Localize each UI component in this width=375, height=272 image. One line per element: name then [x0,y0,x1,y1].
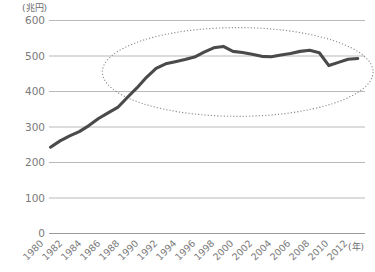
x-tick-label-1992: 1992 [135,238,160,263]
plateau-highlight-ellipse [102,28,373,117]
y-tick-label-100: 100 [25,192,45,204]
y-axis-unit-label: (兆円) [22,3,47,13]
line-chart: (兆円) 600 500 400 300 200 100 0 1980 [0,0,375,272]
x-tick-label-1980: 1980 [21,238,46,263]
x-tick-label-1998: 1998 [192,238,217,263]
x-tick-label-2008: 2008 [287,238,312,263]
x-axis-unit-label: (年) [348,241,364,252]
y-tick-label-200: 200 [25,156,45,168]
y-tick-label-600: 600 [25,14,45,26]
x-tick-label-1996: 1996 [173,238,198,263]
x-tick-label-1988: 1988 [97,238,122,263]
x-tick-label-2000: 2000 [211,238,236,263]
x-tick-label-2002: 2002 [230,238,255,263]
chart-container: (兆円) 600 500 400 300 200 100 0 1980 [0,0,375,272]
y-axis-tick-labels: 600 500 400 300 200 100 0 [25,14,45,239]
x-tick-label-2004: 2004 [249,238,274,263]
x-tick-label-1982: 1982 [40,238,65,263]
x-tick-label-2012: 2012 [325,238,350,263]
x-tick-label-1990: 1990 [116,238,141,263]
x-tick-label-1984: 1984 [59,238,84,263]
series-line-nominal-gdp [51,46,358,147]
x-tick-label-1994: 1994 [154,238,179,263]
y-tick-label-500: 500 [25,50,45,62]
y-tick-label-400: 400 [25,85,45,97]
x-tick-label-2006: 2006 [268,238,293,263]
x-tick-label-2010: 2010 [306,238,331,263]
x-tick-label-1986: 1986 [78,238,103,263]
y-tick-label-300: 300 [25,121,45,133]
y-tick-label-0: 0 [38,227,45,239]
x-axis-tick-labels: 1980 1982 1984 1986 1988 1990 1992 1994 … [21,238,350,263]
